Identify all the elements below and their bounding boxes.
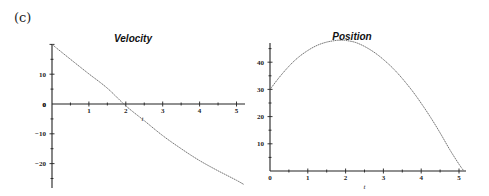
y-tick-label: 20: [257, 113, 265, 121]
panel-label: (c): [14, 10, 31, 25]
y-tick-label: −20: [35, 160, 46, 168]
position-chart: Position01234510203040t: [257, 31, 466, 191]
position-x-label: t: [364, 183, 367, 191]
y-tick-label: 10: [257, 140, 265, 148]
x-tick-label: 5: [235, 107, 239, 115]
y-tick-label: 40: [257, 59, 265, 67]
x-tick-label: 3: [161, 107, 165, 115]
y-tick-label: 30: [257, 86, 265, 94]
x-tick-label: 1: [87, 107, 91, 115]
y-tick-label: 0: [43, 101, 47, 109]
y-tick-label: 10: [39, 71, 47, 79]
x-tick-label: 0: [268, 174, 272, 182]
velocity-curve: [52, 44, 244, 184]
x-tick-label: 2: [344, 174, 348, 182]
position-curve: [270, 40, 464, 170]
x-tick-label: 1: [306, 174, 310, 182]
x-tick-label: 3: [382, 174, 386, 182]
figure: (c) Velocity12345−20−100100t Position012…: [0, 0, 489, 196]
y-tick-label: −10: [35, 130, 46, 138]
x-tick-label: 4: [419, 174, 423, 182]
x-tick-label: 4: [198, 107, 202, 115]
x-tick-label: 5: [457, 174, 461, 182]
x-tick-label: 2: [124, 107, 128, 115]
velocity-chart: Velocity12345−20−100100t: [35, 33, 245, 188]
velocity-title: Velocity: [114, 33, 152, 44]
